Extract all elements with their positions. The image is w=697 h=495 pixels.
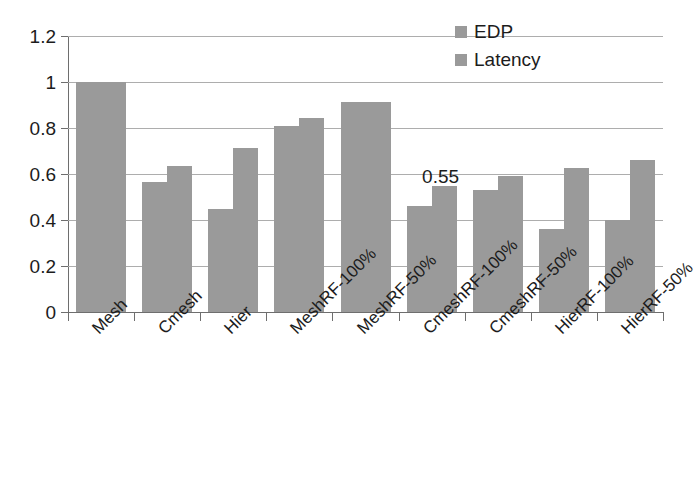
- y-axis-tick-label: 0.2: [2, 257, 56, 276]
- y-axis-labels: 00.20.40.60.811.2: [0, 0, 56, 495]
- bar-latency[interactable]: [101, 82, 126, 312]
- bar-edp[interactable]: [274, 126, 299, 312]
- x-axis-tick: [663, 313, 664, 321]
- y-axis-tick-label: 0.6: [2, 165, 56, 184]
- bar-group: [208, 36, 258, 312]
- bar-group: [142, 36, 192, 312]
- x-axis-tick: [68, 313, 69, 321]
- x-axis-tick: [134, 313, 135, 321]
- x-axis-tick: [399, 313, 400, 321]
- y-axis-tick-label: 0.4: [2, 211, 56, 230]
- y-axis-tick-label: 0: [2, 303, 56, 322]
- y-axis-tick-label: 1: [2, 73, 56, 92]
- bar-latency[interactable]: [233, 148, 258, 312]
- y-axis-tick-label: 1.2: [2, 27, 56, 46]
- legend-item-latency[interactable]: Latency: [455, 50, 541, 69]
- legend-label-edp: EDP: [474, 22, 513, 41]
- legend-item-edp[interactable]: EDP: [455, 22, 541, 41]
- y-axis-tick: [61, 174, 68, 175]
- y-axis-tick: [61, 36, 68, 37]
- legend-label-latency: Latency: [474, 50, 541, 69]
- bar-latency[interactable]: [299, 118, 324, 312]
- legend: EDP Latency: [455, 22, 541, 69]
- data-label: 0.55: [422, 167, 459, 186]
- y-axis-tick: [61, 266, 68, 267]
- bar-edp[interactable]: [76, 82, 101, 312]
- x-axis-tick: [266, 313, 267, 321]
- x-axis-tick: [465, 313, 466, 321]
- x-axis-tick: [531, 313, 532, 321]
- y-axis-tick-label: 0.8: [2, 119, 56, 138]
- x-axis-tick: [597, 313, 598, 321]
- bar-edp[interactable]: [142, 182, 167, 312]
- y-axis-tick: [61, 128, 68, 129]
- x-axis-tick: [332, 313, 333, 321]
- bar-group: [274, 36, 324, 312]
- y-axis-tick: [61, 312, 68, 313]
- legend-swatch-latency: [455, 54, 467, 66]
- y-axis-tick: [61, 82, 68, 83]
- bar-edp[interactable]: [208, 209, 233, 313]
- x-axis-tick: [200, 313, 201, 321]
- bar-latency[interactable]: [366, 102, 391, 312]
- y-axis-tick: [61, 220, 68, 221]
- legend-swatch-edp: [455, 26, 467, 38]
- bar-group: [76, 36, 126, 312]
